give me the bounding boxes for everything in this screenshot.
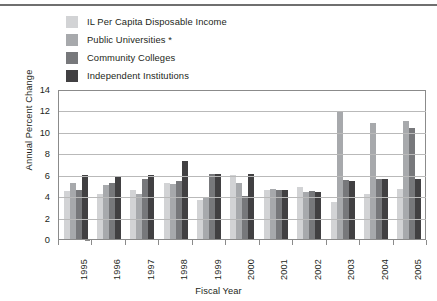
x-axis-tick-mark	[393, 240, 394, 245]
y-axis-tick-label: 6	[32, 172, 50, 181]
x-axis-labels: 1995199619971998199920002001200220032004…	[58, 246, 426, 286]
chart-page: IL Per Capita Disposable IncomePublic Un…	[0, 0, 437, 301]
gridline	[59, 219, 426, 220]
x-axis-tick-label: 2003	[346, 259, 356, 280]
y-axis-tick-label: 4	[32, 193, 50, 202]
x-axis-tick-mark	[359, 240, 360, 245]
y-axis-tick-label: 8	[32, 150, 50, 159]
x-axis-tick-mark	[125, 240, 126, 245]
x-axis-tick-label: 2001	[279, 259, 289, 280]
x-axis-tick-mark	[91, 240, 92, 245]
x-axis-tick-label: 1999	[213, 259, 223, 280]
x-axis-tick-mark	[58, 240, 59, 245]
x-axis-tick-mark	[259, 240, 260, 245]
x-axis-tick-label: 2004	[380, 259, 390, 280]
bar	[82, 175, 88, 239]
x-axis-tick-label: 2005	[413, 259, 423, 280]
x-axis-title: Fiscal Year	[0, 286, 437, 296]
x-axis-tick-mark	[192, 240, 193, 245]
x-axis-tick-mark	[225, 240, 226, 245]
y-axis-tick-label: 12	[32, 107, 50, 116]
y-axis-tick-label: 0	[32, 236, 50, 245]
bar	[215, 174, 221, 239]
plot-region	[58, 90, 426, 240]
x-axis-tick-mark	[326, 240, 327, 245]
x-axis-tick-label: 1997	[146, 259, 156, 280]
x-axis-tick-label: 1996	[112, 259, 122, 280]
y-axis-tick-label: 14	[32, 86, 50, 95]
bar	[248, 174, 254, 239]
bar	[148, 175, 154, 239]
chart-area: Annual Percent Change 14121086420 199519…	[0, 0, 437, 301]
y-axis-ticks: 14121086420	[32, 0, 50, 301]
x-axis-tick-label: 2002	[313, 259, 323, 280]
gridline	[59, 111, 426, 112]
x-axis-tick-mark	[292, 240, 293, 245]
gridline	[59, 154, 426, 155]
gridline	[59, 197, 426, 198]
bar	[349, 181, 355, 239]
bar	[315, 192, 321, 239]
x-axis-tick-label: 1998	[179, 259, 189, 280]
x-axis-tick-mark	[158, 240, 159, 245]
x-axis-tick-mark	[426, 240, 427, 245]
bar	[182, 161, 188, 239]
bar	[415, 179, 421, 239]
gridline	[59, 133, 426, 134]
x-axis-tick-label: 2000	[246, 259, 256, 280]
bar	[382, 179, 388, 239]
bar	[115, 176, 121, 239]
x-axis-tick-label: 1995	[79, 259, 89, 280]
y-axis-tick-label: 2	[32, 215, 50, 224]
y-axis-tick-label: 10	[32, 129, 50, 138]
gridline	[59, 176, 426, 177]
x-axis-tick-marks	[58, 240, 426, 245]
